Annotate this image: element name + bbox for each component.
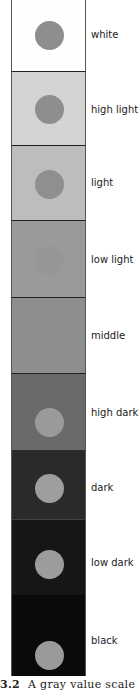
label-low-dark: low dark	[91, 557, 134, 569]
circle-swatch	[35, 474, 64, 503]
label-dark: dark	[91, 482, 113, 494]
label-light: light	[91, 177, 113, 189]
label-high-light: high light	[91, 104, 138, 116]
label-middle: middle	[91, 330, 125, 342]
figure-number: 3.2	[0, 678, 20, 691]
circle-swatch	[35, 95, 64, 124]
cell-high-light	[11, 72, 86, 146]
cell-low-light	[11, 221, 86, 298]
cell-black	[11, 595, 86, 676]
label-high-dark: high dark	[91, 407, 138, 419]
circle-swatch	[35, 322, 64, 351]
circle-swatch	[35, 246, 64, 275]
label-white: white	[91, 29, 118, 41]
cell-white	[11, 0, 86, 72]
label-low-light: low light	[91, 254, 133, 266]
figure-caption: 3.2A gray value scale	[0, 678, 135, 691]
circle-swatch	[35, 21, 64, 50]
cell-light	[11, 146, 86, 221]
cell-middle	[11, 298, 86, 374]
cell-dark	[11, 450, 86, 520]
cell-high-dark	[11, 374, 86, 450]
label-black: black	[91, 635, 118, 647]
circle-swatch	[35, 641, 64, 670]
circle-swatch	[35, 408, 64, 437]
cell-low-dark	[11, 520, 86, 595]
figure-caption-text: A gray value scale	[28, 678, 135, 691]
circle-swatch	[35, 550, 64, 579]
circle-swatch	[35, 170, 64, 199]
